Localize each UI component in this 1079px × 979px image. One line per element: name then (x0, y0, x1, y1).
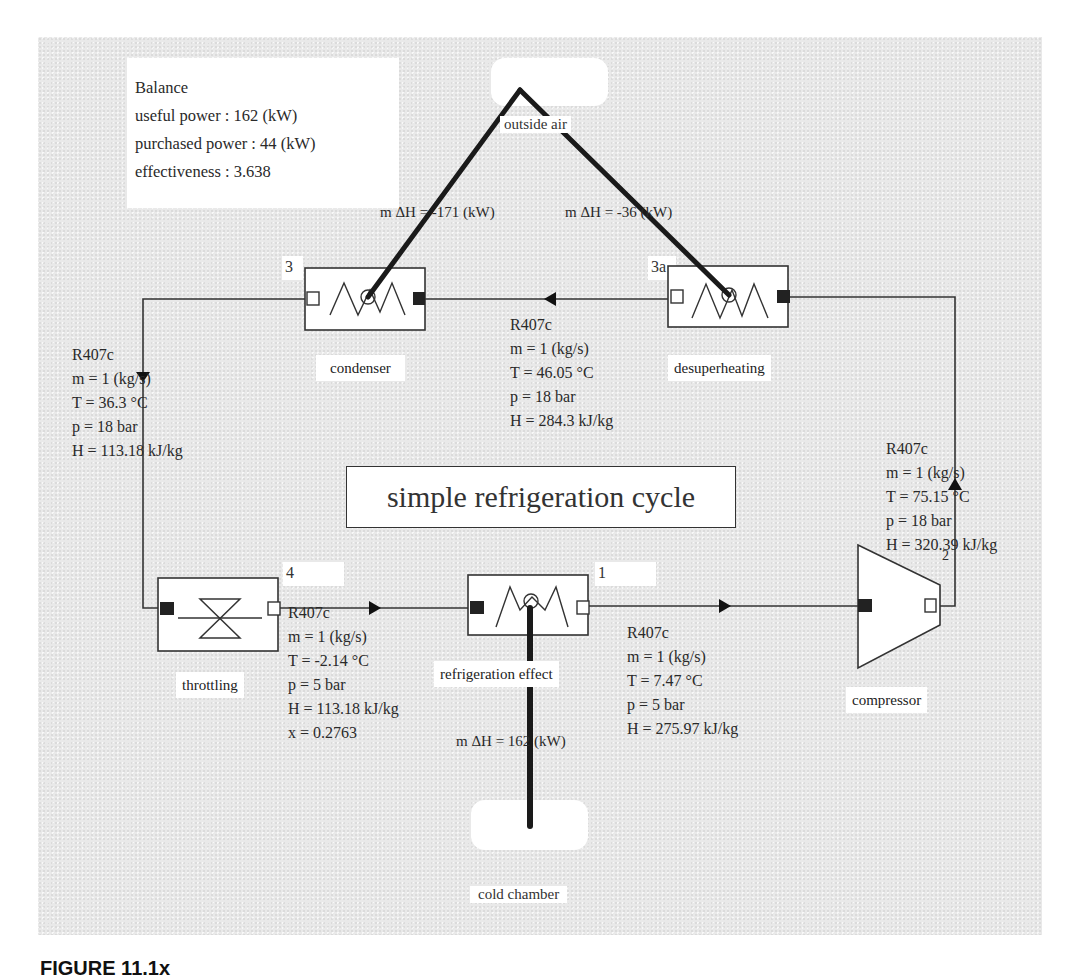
cold-chamber-label: cold chamber (470, 886, 567, 903)
condenser-label: condenser (316, 355, 405, 381)
figure-caption: FIGURE 11.1x (40, 957, 170, 979)
condenser-component (305, 268, 425, 330)
compressor-label: compressor (846, 687, 927, 713)
compressor-component (858, 545, 940, 668)
state-after-throttling: R407c m = 1 (kg/s) T = -2.14 °C p = 5 ba… (288, 601, 399, 745)
desuperheating-label: desuperheating (668, 355, 771, 381)
heat-flow-condenser: m ΔH = -171 (kW) (380, 200, 495, 224)
heat-flow-desuperheating: m ΔH = -36 (kW) (565, 200, 672, 224)
state-after-condenser: R407c m = 1 (kg/s) T = 36.3 °C p = 18 ba… (72, 343, 183, 463)
diagram-title: simple refrigeration cycle (346, 466, 736, 528)
throttling-label: throttling (176, 672, 244, 698)
port-number-2: 2 (942, 544, 949, 568)
state-after-evaporator: R407c m = 1 (kg/s) T = 7.47 °C p = 5 bar… (627, 621, 738, 741)
state-after-desuperheating: R407c m = 1 (kg/s) T = 46.05 °C p = 18 b… (510, 313, 613, 433)
throttling-valve-component (158, 578, 280, 651)
heat-line-outside-air-to-condenser (368, 90, 520, 297)
heat-flow-refrigeration: m ΔH = 162 (kW) (456, 729, 566, 753)
state-after-compressor: R407c m = 1 (kg/s) T = 75.15 °C p = 18 b… (886, 437, 997, 557)
flow-arrow-right-icon (719, 599, 731, 613)
flow-arrow-left-icon (544, 292, 556, 306)
outside-air-label: outside air (500, 116, 571, 133)
refrigeration-effect-label: refrigeration effect (434, 661, 559, 687)
